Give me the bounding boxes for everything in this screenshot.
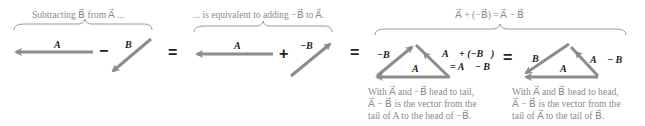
label-tri-neg-b: −B⃗ [377, 49, 398, 60]
label-tri2-diff: A⃗ − B⃗ [589, 54, 630, 65]
vector-subtraction-diagram: Subtracting B⃗ from A⃗ ... A⃗ − B⃗ = ...… [0, 0, 645, 126]
desc-3-line-3: tail of A to the head of −B⃗. [368, 109, 471, 121]
desc-3-line-2: A⃗ − B⃗ is the vector from the [368, 97, 477, 109]
label-a: A⃗ [53, 39, 68, 50]
equals-2: = [350, 44, 359, 61]
label-tri-sum-1: A⃗ + (−B⃗) [441, 48, 494, 60]
equals-3: = [503, 49, 512, 66]
brace-subtracting [14, 19, 152, 30]
desc-4-line-3: tail of A⃗ to the tail of B⃗. [512, 109, 604, 121]
minus-operator: − [99, 42, 108, 59]
plus-operator: + [279, 45, 288, 62]
desc-4-line-2: A⃗ − B⃗ is the vector from the [512, 97, 621, 109]
label-b: B⃗ [124, 39, 139, 50]
brace-identity [375, 24, 626, 35]
desc-4-line-1: With A⃗ and B⃗ head to head, [512, 85, 619, 97]
label-tri2-a: A⃗ [559, 63, 574, 74]
label-tri-a: A⃗ [411, 63, 426, 74]
brace-equivalent [194, 21, 332, 32]
label-tri-sum-2: = A⃗ − B⃗ [450, 61, 498, 72]
caption-equivalent: ... is equivalent to adding −B⃗ to A⃗. [193, 8, 325, 20]
label-neg-b: −B⃗ [300, 40, 321, 51]
caption-subtracting: Subtracting B⃗ from A⃗ ... [32, 8, 124, 20]
label-a-2: A⃗ [233, 40, 248, 51]
desc-3-line-1: With A⃗ and −B⃗ head to tail, [368, 85, 474, 97]
caption-identity: A⃗ + (−B⃗) = A⃗ − B⃗ [455, 8, 524, 21]
equals-1: = [168, 44, 177, 61]
label-tri2-b: B⃗ [531, 53, 546, 64]
